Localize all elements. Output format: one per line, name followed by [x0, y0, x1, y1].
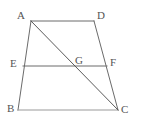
- vertex-label-C: C: [121, 104, 128, 115]
- vertex-label-B: B: [7, 103, 14, 114]
- vertex-label-D: D: [97, 10, 105, 21]
- vertex-label-G: G: [75, 55, 83, 66]
- vertex-label-A: A: [17, 10, 25, 21]
- vertex-label-E: E: [10, 58, 17, 69]
- vertex-label-F: F: [110, 57, 116, 68]
- geometry-figure: A D E G F B C: [0, 0, 144, 126]
